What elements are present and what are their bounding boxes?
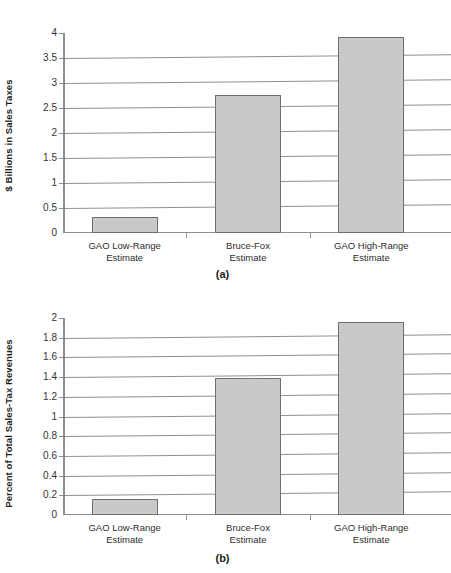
y-axis-tick-mark [59, 436, 63, 437]
x-axis-category-label: GAO High-Range Estimate [310, 240, 433, 263]
y-axis-tick-mark [59, 83, 63, 84]
y-axis-tick-label: 1.8 [43, 334, 57, 342]
y-axis-tick-mark [59, 377, 63, 378]
bar [92, 217, 158, 233]
y-axis-tick-mark [59, 397, 63, 398]
y-axis-tick-label: 1.4 [43, 373, 57, 381]
x-axis-tick-mark [310, 515, 311, 520]
y-axis-tick-mark [59, 158, 63, 159]
x-axis-tick-mark [310, 233, 311, 238]
y-axis-tick-label: 0 [51, 229, 57, 237]
y-axis-tick-labels: 21.81.61.41.210.80.60.40.20 [25, 318, 57, 515]
chart-figure-a: $ Billions in Sales Taxes43.532.521.510.… [0, 0, 445, 290]
y-axis-tick-mark [59, 183, 63, 184]
y-axis-tick-label: 0.4 [43, 472, 57, 480]
y-axis-tick-label: 2 [51, 314, 57, 322]
bar [215, 95, 281, 234]
x-axis-category-label: GAO Low-Range Estimate [63, 522, 186, 545]
y-axis-tick-label: 0.2 [43, 491, 57, 499]
y-axis-tick-label: 2 [51, 129, 57, 137]
bar [338, 37, 404, 234]
y-axis-tick-label: 1 [51, 179, 57, 187]
x-axis-category-label: Bruce-Fox Estimate [186, 240, 309, 263]
y-axis-tick-mark [59, 318, 63, 319]
y-axis-tick-label: 0.6 [43, 452, 57, 460]
y-axis-tick-mark [59, 33, 63, 34]
y-axis-tick-mark [59, 58, 63, 59]
figure-caption: (a) [0, 268, 445, 280]
y-axis-tick-mark [59, 108, 63, 109]
y-axis-tick-label: 1.2 [43, 393, 57, 401]
y-axis-tick-label: 2.5 [43, 104, 57, 112]
bar [92, 499, 158, 515]
bar [215, 378, 281, 515]
y-axis-tick-mark [59, 357, 63, 358]
x-axis-tick-mark [186, 233, 187, 238]
y-axis-tick-mark [59, 133, 63, 134]
x-axis-category-label: Bruce-Fox Estimate [186, 522, 309, 545]
y-axis-tick-label: 1 [51, 413, 57, 421]
x-axis-tick-mark [186, 515, 187, 520]
y-axis-tick-label: 4 [51, 29, 57, 37]
y-axis-title: $ Billions in Sales Taxes [3, 26, 14, 246]
y-axis-tick-mark [59, 338, 63, 339]
y-axis-tick-label: 1.5 [43, 154, 57, 162]
y-axis-tick-mark [59, 417, 63, 418]
y-axis-tick-label: 3.5 [43, 54, 57, 62]
y-axis-tick-mark [59, 476, 63, 477]
bar [338, 322, 404, 515]
x-axis-category-label: GAO Low-Range Estimate [63, 240, 186, 263]
figure-caption: (b) [0, 552, 445, 564]
chart-figure-b: Percent of Total Sales-Tax Revenues21.81… [0, 290, 445, 573]
y-axis-tick-label: 3 [51, 79, 57, 87]
plot-area [63, 33, 433, 233]
y-axis-tick-label: 0.5 [43, 204, 57, 212]
y-axis-tick-labels: 43.532.521.510.50 [25, 33, 57, 233]
y-axis-tick-mark [59, 456, 63, 457]
y-axis-tick-label: 1.6 [43, 353, 57, 361]
plot-area [63, 318, 433, 515]
y-axis-tick-mark [59, 208, 63, 209]
y-axis-tick-mark [59, 495, 63, 496]
x-axis-category-label: GAO High-Range Estimate [310, 522, 433, 545]
y-axis-title: Percent of Total Sales-Tax Revenues [3, 314, 14, 534]
y-axis-tick-label: 0.8 [43, 432, 57, 440]
y-axis-tick-label: 0 [51, 511, 57, 519]
